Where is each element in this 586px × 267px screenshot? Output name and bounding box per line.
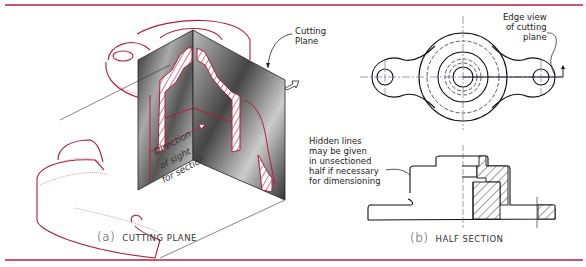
hidden-line4: half if necessary [309,166,379,176]
hidden-line2: may be given [309,146,367,156]
hidden-line3: in unsectioned [309,156,371,166]
hidden-line5: for dimensioning [309,176,381,186]
caption-b-letter: (b) [410,231,428,245]
hidden-line1: Hidden lines [309,136,362,146]
panel-b-drawing [0,0,586,267]
edge-view-line1: Edge view [503,12,547,22]
hidden-lines-label: Hidden linesmay be givenin unsectionedha… [309,136,381,186]
edge-view-line3: plane [507,32,547,42]
caption-a-letter: (a) [97,230,115,244]
cutting-plane-line1: Cutting [295,26,326,36]
caption-b-text: HALF SECTION [435,234,503,244]
cutting-plane-line2: Plane [295,36,318,46]
cutting-plane-label: CuttingPlane [295,26,326,46]
edge-view-label: Edge viewof cuttingplane [503,12,547,42]
edge-view-line2: of cutting [506,22,547,32]
caption-a-text: CUTTING PLANE [122,233,197,243]
caption-a: (a)CUTTING PLANE [97,230,197,244]
caption-b: (b)HALF SECTION [410,231,503,245]
